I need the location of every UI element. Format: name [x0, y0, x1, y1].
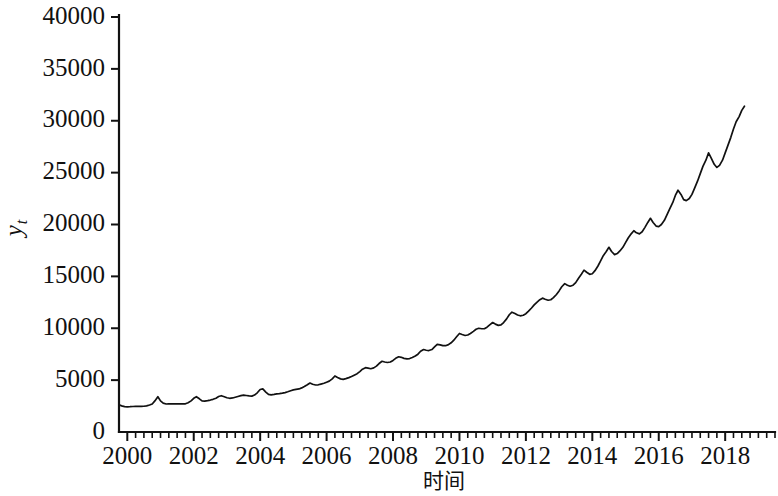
- y-tick-label: 10000: [43, 313, 106, 340]
- y-tick-label: 20000: [43, 209, 106, 236]
- x-axis: [119, 432, 775, 441]
- x-tick-label: 2010: [434, 442, 484, 469]
- series-line-yt: [119, 106, 744, 407]
- plot-area: [119, 106, 744, 407]
- y-tick-label: 25000: [43, 157, 106, 184]
- x-tick-label: 2016: [634, 442, 684, 469]
- y-axis: [111, 15, 119, 432]
- x-tick-labels: 2000200220042006200820102012201420162018: [102, 442, 750, 469]
- x-tick-label: 2004: [235, 442, 286, 469]
- y-axis-title: yt: [0, 219, 30, 239]
- y-tick-label: 0: [93, 417, 106, 444]
- y-tick-label: 30000: [43, 105, 106, 132]
- x-tick-label: 2012: [501, 442, 551, 469]
- y-tick-label: 40000: [43, 2, 106, 29]
- y-tick-label: 15000: [43, 261, 106, 288]
- x-axis-title: 时间: [423, 469, 465, 492]
- y-tick-labels: 0500010000150002000025000300003500040000: [43, 2, 106, 444]
- x-tick-label: 2006: [302, 442, 352, 469]
- x-tick-label: 2018: [700, 442, 750, 469]
- time-series-chart: 0500010000150002000025000300003500040000…: [0, 0, 778, 496]
- x-tick-label: 2014: [567, 442, 618, 469]
- y-axis-title-subscript: t: [13, 219, 30, 224]
- y-axis-title-main: y: [0, 224, 27, 239]
- y-tick-label: 35000: [43, 54, 106, 81]
- x-tick-label: 2000: [102, 442, 152, 469]
- y-tick-label: 5000: [55, 365, 105, 392]
- svg-text:yt: yt: [0, 219, 30, 239]
- x-tick-label: 2002: [169, 442, 219, 469]
- x-tick-label: 2008: [368, 442, 418, 469]
